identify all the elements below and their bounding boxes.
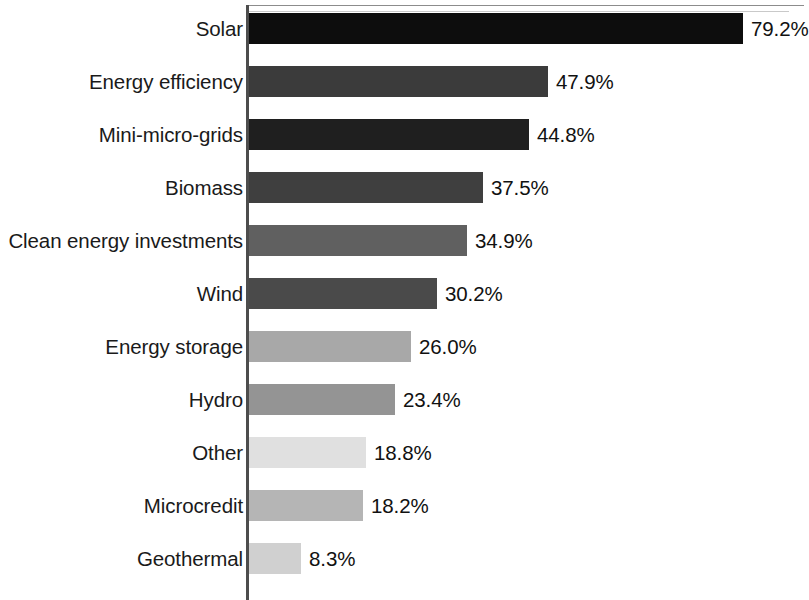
bar bbox=[249, 172, 483, 203]
category-label: Solar bbox=[196, 18, 243, 39]
bar-row: Hydro23.4% bbox=[0, 384, 809, 415]
bar-value-label: 47.9% bbox=[556, 71, 614, 92]
bar-row: Energy storage26.0% bbox=[0, 331, 809, 362]
bar-value-label: 18.8% bbox=[374, 442, 432, 463]
bar bbox=[249, 119, 529, 150]
bar-row: Clean energy investments34.9% bbox=[0, 225, 809, 256]
bar-row: Microcredit18.2% bbox=[0, 490, 809, 521]
bar-value-label: 44.8% bbox=[537, 124, 595, 145]
bar-row: Geothermal8.3% bbox=[0, 543, 809, 574]
category-label: Energy efficiency bbox=[89, 71, 243, 92]
category-label: Geothermal bbox=[137, 548, 243, 569]
category-label: Mini-micro-grids bbox=[99, 124, 243, 145]
bar bbox=[249, 384, 395, 415]
bar bbox=[249, 331, 411, 362]
bar bbox=[249, 225, 467, 256]
bar-row: Wind30.2% bbox=[0, 278, 809, 309]
bar-value-label: 18.2% bbox=[371, 495, 429, 516]
category-label: Microcredit bbox=[144, 495, 243, 516]
bar-value-label: 34.9% bbox=[475, 230, 533, 251]
bar-chart: Solar79.2%Energy efficiency47.9%Mini-mic… bbox=[0, 0, 809, 600]
bar bbox=[249, 543, 301, 574]
bar-value-label: 26.0% bbox=[419, 336, 477, 357]
bar-value-label: 79.2% bbox=[751, 18, 809, 39]
bar-row: Solar79.2% bbox=[0, 13, 809, 44]
bar-value-label: 23.4% bbox=[403, 389, 461, 410]
bar bbox=[249, 437, 366, 468]
bar-row: Mini-micro-grids44.8% bbox=[0, 119, 809, 150]
bar bbox=[249, 66, 548, 97]
category-label: Other bbox=[192, 442, 243, 463]
bar-row: Other18.8% bbox=[0, 437, 809, 468]
bar-value-label: 8.3% bbox=[309, 548, 355, 569]
bar-value-label: 37.5% bbox=[491, 177, 549, 198]
bar-row: Biomass37.5% bbox=[0, 172, 809, 203]
bar-rows-container: Solar79.2%Energy efficiency47.9%Mini-mic… bbox=[0, 0, 809, 600]
category-label: Energy storage bbox=[105, 336, 243, 357]
bar bbox=[249, 490, 363, 521]
bar-value-label: 30.2% bbox=[445, 283, 503, 304]
category-label: Hydro bbox=[189, 389, 243, 410]
bar-row: Energy efficiency47.9% bbox=[0, 66, 809, 97]
category-label: Clean energy investments bbox=[8, 230, 243, 251]
bar bbox=[249, 278, 437, 309]
bar bbox=[249, 13, 743, 44]
category-label: Wind bbox=[197, 283, 243, 304]
category-label: Biomass bbox=[165, 177, 243, 198]
